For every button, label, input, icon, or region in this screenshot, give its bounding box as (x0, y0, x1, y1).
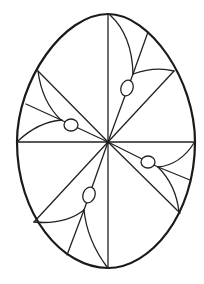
diagonal-lower-right (108, 142, 180, 213)
oval-lower-left (81, 185, 98, 204)
petal-lower-right (108, 142, 194, 212)
oval-lower-right (141, 156, 155, 168)
arc-edge-to-junction (34, 210, 84, 223)
diagonal-upper-right (108, 71, 174, 142)
arc-edge-to-junction (38, 71, 61, 120)
arc-right-to-junction (158, 143, 194, 167)
arc-top-to-junction (110, 15, 133, 74)
coloring-page-canvas: Easter egg coloring page (0, 0, 204, 284)
spoke-junction-to-edge (133, 32, 148, 74)
arc-junction-to-edge (133, 69, 174, 74)
egg-drawing (0, 0, 204, 284)
spoke-junction-to-edge (158, 167, 190, 180)
spoke-junction-to-edge (67, 210, 84, 255)
arc-bottom-to-junction (84, 210, 107, 267)
spoke-junction-to-edge (26, 104, 61, 120)
diagonal-lower-left (34, 142, 108, 222)
oval-upper-right (119, 78, 136, 97)
petal-upper-right (108, 15, 174, 142)
arc-left-to-junction (18, 120, 62, 141)
center-hub (106, 140, 109, 143)
petal-lower-left (34, 142, 108, 267)
oval-upper-left (64, 119, 78, 131)
